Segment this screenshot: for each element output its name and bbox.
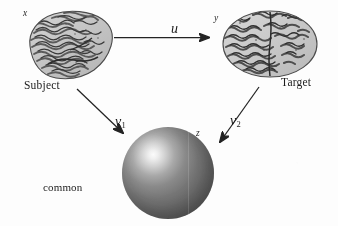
target-brain-image	[218, 6, 322, 82]
sphere-surface	[122, 127, 214, 219]
arrow-u-label: u	[157, 4, 178, 54]
arrow-u-label-text: u	[171, 21, 178, 36]
brain-mapping-figure: x Subject	[0, 0, 338, 226]
parametric-sphere	[122, 127, 214, 219]
target-caption: Target	[281, 76, 311, 90]
sphere-caption: common parametric space	[43, 151, 92, 226]
sphere-caption-line-2: parametric	[43, 224, 92, 226]
subject-caption: Subject	[24, 79, 60, 93]
subject-variable-label: x	[23, 8, 27, 19]
sphere-caption-line-1: common	[43, 180, 92, 195]
subject-brain-image	[18, 6, 118, 82]
sphere-variable-label: z	[196, 128, 200, 139]
arrow-v1-label-text: v	[115, 114, 121, 129]
arrow-v2-label: v2	[216, 96, 241, 146]
arrow-v2-subscript: 2	[237, 119, 241, 129]
arrow-v2-label-text: v	[230, 113, 236, 128]
sphere-seam-line	[188, 129, 189, 217]
